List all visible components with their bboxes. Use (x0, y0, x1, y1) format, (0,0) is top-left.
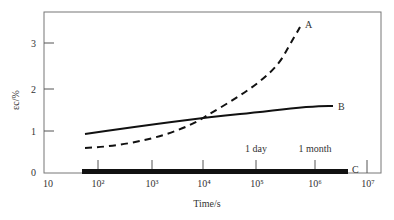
annotation-1-day: 1 day (245, 143, 267, 154)
chart-canvas: 3 2 1 0 εc/% 10 10² 10³ 10⁴ 10⁵ 10⁶ 10⁷ … (0, 0, 394, 220)
series-b-label: B (338, 101, 345, 112)
annotation-1-month: 1 month (298, 143, 331, 154)
y-tick-3: 3 (31, 38, 36, 49)
x-tick-1e4: 10⁴ (197, 178, 211, 189)
x-tick-1e5: 10⁵ (250, 178, 264, 189)
x-tick-1e2: 10² (92, 178, 105, 189)
x-axis-label: Time/s (193, 198, 221, 209)
y-tick-0: 0 (31, 167, 36, 178)
x-tick-1e6: 10⁶ (308, 178, 322, 189)
y-axis-label: εc/% (10, 90, 21, 110)
series-a-label: A (305, 19, 313, 30)
y-tick-1: 1 (31, 126, 36, 137)
series-b-line (85, 106, 333, 134)
x-tick-1e3: 10³ (146, 178, 159, 189)
y-tick-2: 2 (31, 84, 36, 95)
series-c-label: C (352, 164, 359, 175)
x-tick-10: 10 (43, 178, 53, 189)
x-tick-1e7: 10⁷ (361, 178, 375, 189)
series-c-bar (82, 169, 348, 174)
y-axis (44, 43, 54, 131)
